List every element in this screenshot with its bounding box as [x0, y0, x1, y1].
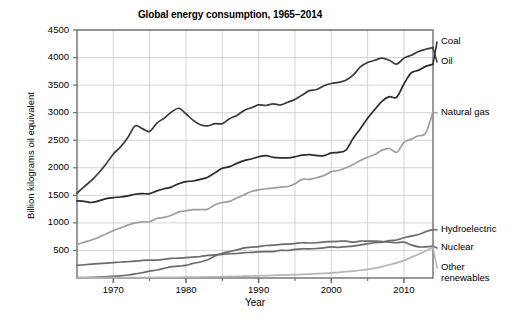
- x-tick-label: 1970: [93, 285, 133, 295]
- series-line-oil: [77, 48, 433, 193]
- chart-title: Global energy consumption, 1965–2014: [0, 9, 460, 20]
- y-tick-label: 4500: [35, 25, 69, 35]
- label-leader-hydroelectric: [433, 230, 437, 231]
- x-tick-label: 2000: [311, 285, 351, 295]
- series-label-other-renewables: Other renewables: [441, 262, 490, 283]
- series-label-nuclear: Nuclear: [441, 242, 474, 253]
- series-line-nuclear: [77, 241, 433, 278]
- series-label-coal: Coal: [441, 36, 461, 47]
- y-tick-label: 1500: [35, 190, 69, 200]
- x-axis-title: Year: [77, 297, 433, 308]
- data-series-layer: [77, 48, 433, 278]
- y-tick-label: 1000: [35, 217, 69, 227]
- y-tick-label: 2000: [35, 162, 69, 172]
- series-label-hydroelectric: Hydroelectric: [441, 224, 496, 235]
- chart-container: Global energy consumption, 1965–2014 Bil…: [0, 0, 529, 321]
- x-tick-label: 1980: [166, 285, 206, 295]
- y-tick-label: 2500: [35, 135, 69, 145]
- y-tick-label: 500: [35, 245, 69, 255]
- y-tick-label: 3500: [35, 80, 69, 90]
- series-label-natural-gas: Natural gas: [441, 107, 490, 118]
- y-axis-title: Billion kilograms oil equivalent: [25, 56, 36, 256]
- x-tick-label: 2010: [384, 285, 424, 295]
- y-tick-label: 3000: [35, 107, 69, 117]
- label-leader-natural-gas: [433, 112, 437, 113]
- x-tick-label: 1990: [239, 285, 279, 295]
- series-label-oil: Oil: [441, 56, 453, 67]
- y-tick-label: 4000: [35, 52, 69, 62]
